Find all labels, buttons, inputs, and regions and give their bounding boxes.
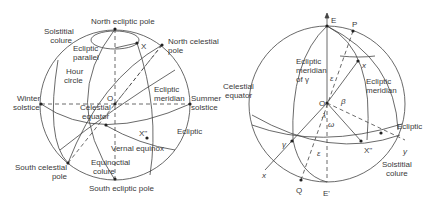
label-beta: β	[341, 97, 346, 106]
label-celestial-equator-1: Celestial	[80, 103, 111, 112]
label-ecliptic-parallel-1: Ecliptic	[73, 44, 98, 53]
label-ecliptic-meridian-2: meridian	[366, 86, 397, 95]
label-P: P	[352, 20, 357, 29]
label-epsilon-top: ε	[330, 74, 334, 83]
label-lambda: λ	[322, 111, 326, 120]
label-celestial-equator-2: equator	[82, 112, 109, 121]
label-winter-solstice-1: Winter	[17, 94, 40, 103]
label-solstitial-colure-1: Solstitial	[382, 160, 412, 169]
label-equinoctial-colure-1: Equinoctial	[91, 158, 130, 167]
label-celestial-equator-1: Celestial	[223, 82, 254, 91]
label-ecliptic-meridian-2: meridian	[154, 94, 185, 103]
label-y-axis: y	[403, 147, 407, 156]
label-north-celestial-pole-1: North celestial	[168, 37, 219, 46]
label-south-celestial-pole-2: pole	[14, 172, 67, 181]
label-ecliptic-meridian-gamma-2: meridian	[296, 66, 327, 75]
label-summer-solstice-2: solstice	[191, 103, 218, 112]
label-solstitial-colure-1: Solstitial	[44, 27, 72, 36]
label-celestial-equator-2: equator	[225, 91, 252, 100]
label-omega: ω	[328, 120, 334, 129]
label-south-ecliptic-pole: South ecliptic pole	[89, 184, 154, 193]
label-hour-circle-1: Hour	[66, 67, 83, 76]
label-x-point: X	[141, 42, 146, 51]
label-E-prime: E'	[323, 189, 330, 198]
label-summer-solstice-1: Summer	[191, 94, 221, 103]
label-gamma: γ	[282, 140, 286, 149]
label-south-celestial-pole-1: South celestial	[14, 163, 67, 172]
label-x-axis: x	[262, 171, 266, 180]
label-ecliptic-meridian-gamma-3: of γ	[296, 75, 309, 84]
label-x-double-prime: X''	[364, 146, 372, 155]
label-hour-circle-2: circle	[64, 76, 83, 85]
label-solstitial-colure-2: colure	[386, 169, 408, 178]
label-winter-solstice-2: solstice	[13, 103, 40, 112]
label-vernal-equinox: Vernal equinox	[111, 144, 164, 153]
label-Q: Q	[296, 186, 302, 195]
label-solstitial-colure-2: colure	[44, 36, 72, 45]
label-ecliptic-meridian-1: Ecliptic	[366, 77, 391, 86]
label-x-point: x	[362, 61, 366, 70]
label-x-double-prime: X''	[139, 129, 147, 138]
label-ecliptic-parallel-2: parallel	[73, 53, 99, 62]
label-north-celestial-pole-2: pole	[168, 46, 183, 55]
label-origin: O	[319, 99, 325, 108]
label-ecliptic: Ecliptic	[397, 122, 422, 131]
label-origin: O	[107, 94, 113, 103]
label-ecliptic-meridian-1: Ecliptic	[154, 85, 179, 94]
label-ecliptic-meridian-gamma-1: Ecliptic	[296, 57, 321, 66]
label-equinoctial-colure-2: colure	[93, 167, 115, 176]
label-ecliptic: Ecliptic	[177, 127, 202, 136]
label-E: E	[331, 16, 336, 25]
label-north-ecliptic-pole: North ecliptic pole	[91, 17, 155, 26]
label-epsilon-bottom: ε	[317, 149, 321, 158]
